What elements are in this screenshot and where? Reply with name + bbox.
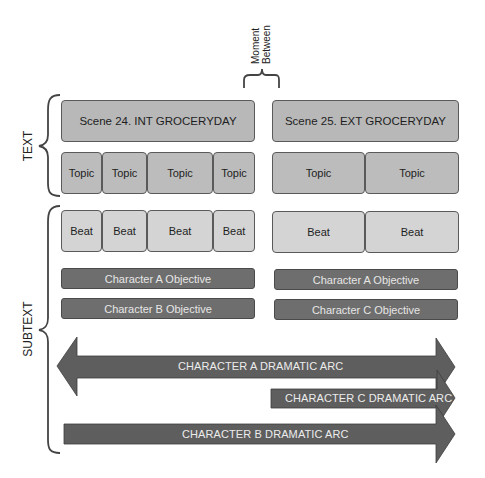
scene-24-beat-4: Beat <box>213 210 255 252</box>
scene-24-topic-4: Topic <box>213 152 255 194</box>
scene-25-topic-2: Topic <box>365 152 459 194</box>
scene-24-topic-3: Topic <box>147 152 213 194</box>
scene-25-topic-1: Topic <box>272 152 365 194</box>
scene-25-character-c-objective: Character C Objective <box>274 299 458 320</box>
subtext-brace <box>39 206 60 453</box>
scene-24-header: Scene 24. INT GROCERYDAY <box>61 100 255 142</box>
subtext-label: SUBTEXT <box>21 299 35 359</box>
scene-24-topic-2: Topic <box>102 152 147 194</box>
moment-between-brace <box>244 69 279 88</box>
text-label: TEXT <box>21 126 35 166</box>
arc-c-label: CHARACTER C DRAMATIC ARC <box>285 392 452 404</box>
arc-b-label: CHARACTER B DRAMATIC ARC <box>182 428 349 440</box>
scene-25-beat-2: Beat <box>365 211 459 253</box>
scene-25-character-a-objective: Character A Objective <box>274 269 458 290</box>
moment-between-label: Moment Between <box>250 6 272 64</box>
moment-between-line1: Moment <box>250 6 261 64</box>
scene-24-character-b-objective: Character B Objective <box>61 298 255 319</box>
scene-24-beat-1: Beat <box>61 210 102 252</box>
text-brace <box>39 95 60 196</box>
moment-between-line2: Between <box>261 6 272 64</box>
scene-24-beat-2: Beat <box>102 210 147 252</box>
scene-24-beat-3: Beat <box>147 210 213 252</box>
scene-25-header: Scene 25. EXT GROCERYDAY <box>272 100 459 142</box>
scene-24-topic-1: Topic <box>61 152 102 194</box>
scene-24-character-a-objective: Character A Objective <box>61 268 255 289</box>
arc-a-label: CHARACTER A DRAMATIC ARC <box>178 360 343 372</box>
scene-25-beat-1: Beat <box>272 211 365 253</box>
